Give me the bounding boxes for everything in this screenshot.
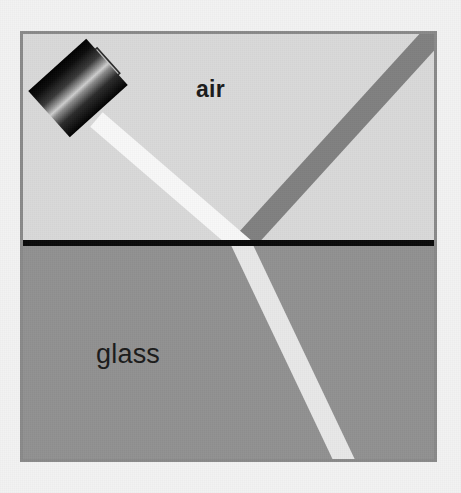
- label-glass: glass: [96, 341, 160, 368]
- label-air: air: [196, 78, 225, 101]
- air-glass-interface-line: [20, 240, 438, 246]
- diagram-canvas: air glass: [0, 0, 461, 493]
- refraction-diagram-svg: [0, 0, 461, 493]
- glass-region: [20, 243, 438, 464]
